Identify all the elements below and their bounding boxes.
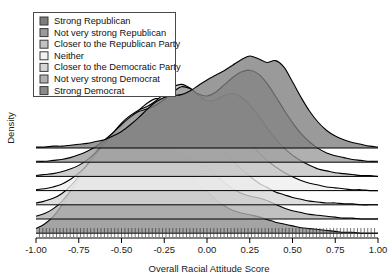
legend-swatch xyxy=(40,75,48,83)
x-axis-tick-labels: -1.00-0.75-0.50-0.250.000.250.500.751.00 xyxy=(25,244,387,255)
x-axis-tick-label: 0.25 xyxy=(241,244,260,255)
legend-label: Strong Republican xyxy=(54,16,131,26)
x-axis-tick-label: 0.00 xyxy=(198,244,217,255)
x-axis xyxy=(36,238,378,243)
legend-swatch xyxy=(40,17,48,25)
legend-label: Not very strong Republican xyxy=(54,28,166,38)
legend-swatch xyxy=(40,87,48,95)
x-axis-tick-label: -0.75 xyxy=(68,244,90,255)
legend-swatch xyxy=(40,40,48,48)
x-axis-tick-label: 1.00 xyxy=(369,244,388,255)
x-axis-tick-label: -0.50 xyxy=(111,244,133,255)
x-axis-tick-label: 0.50 xyxy=(283,244,302,255)
x-axis-tick-label: 0.75 xyxy=(326,244,345,255)
y-axis-title: Density xyxy=(5,112,16,144)
legend-label: Closer to the Democratic Party xyxy=(54,62,181,72)
legend-swatch xyxy=(40,52,48,60)
x-axis-tick-label: -1.00 xyxy=(25,244,47,255)
x-axis-title: Overall Racial Attitude Score xyxy=(149,263,270,274)
legend-label: Strong Democrat xyxy=(54,86,125,96)
x-axis-tick-label: -0.25 xyxy=(153,244,175,255)
legend: Strong RepublicanNot very strong Republi… xyxy=(34,13,181,97)
legend-label: Not very strong Democrat xyxy=(54,74,160,84)
legend-label: Neither xyxy=(54,51,84,61)
chart-root: -1.00-0.75-0.50-0.250.000.250.500.751.00… xyxy=(0,0,392,280)
legend-swatch xyxy=(40,63,48,71)
ridgeline-density-chart: -1.00-0.75-0.50-0.250.000.250.500.751.00… xyxy=(0,0,392,280)
legend-swatch xyxy=(40,29,48,37)
legend-label: Closer to the Republican Party xyxy=(54,39,180,49)
